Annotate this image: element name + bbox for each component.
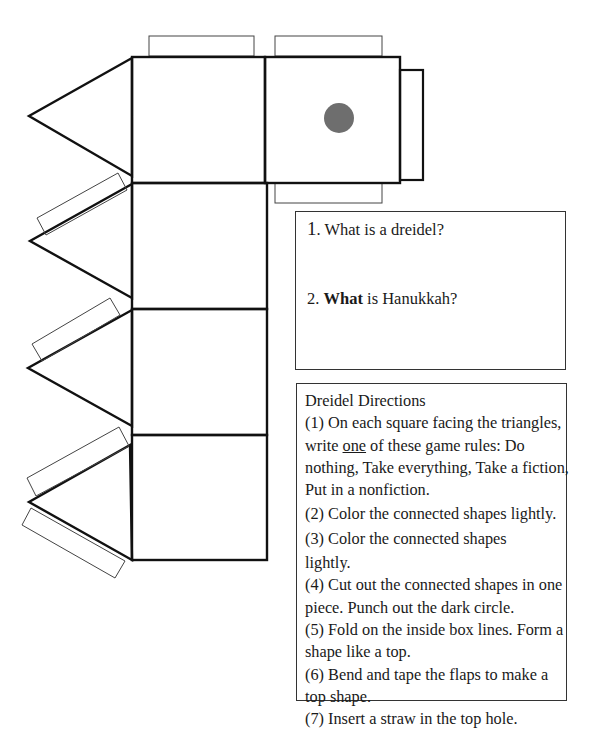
directions-title: Dreidel Directions: [305, 390, 566, 412]
direction-line: (7) Insert a straw in the top hole.: [305, 708, 566, 730]
glue-flap-1: [37, 173, 127, 235]
direction-line: (6) Bend and tape the flaps to make a: [305, 664, 566, 686]
square-top-left: [132, 57, 265, 183]
triangle-2: [30, 184, 132, 298]
direction-line: (2) Color the connected shapes lightly.: [305, 503, 566, 525]
direction-line: write one of these game rules: Do: [305, 435, 566, 457]
direction-line: nothing, Take everything, Take a fiction…: [305, 457, 566, 479]
side-flap-right: [400, 70, 423, 180]
direction-text: of these game rules: Do: [366, 436, 525, 455]
direction-line: (3) Color the connected shapes: [305, 528, 566, 550]
questions-box: 1. What is a dreidel? 2. What is Hanukka…: [295, 211, 566, 370]
punch-circle: [324, 103, 354, 133]
direction-line: lightly.: [305, 552, 566, 574]
direction-line: (5) Fold on the inside box lines. Form a: [305, 619, 566, 641]
bottom-flap-right: [275, 183, 382, 203]
glue-flap-4: [22, 508, 125, 578]
square-3: [132, 309, 267, 435]
direction-text: write: [305, 436, 343, 455]
triangle-1: [29, 58, 132, 176]
question-text: is Hanukkah?: [363, 289, 457, 308]
triangle-3: [28, 310, 132, 426]
glue-flap-2: [32, 298, 120, 361]
question-text: . What is a dreidel?: [317, 220, 445, 239]
direction-line: (4) Cut out the connected shapes in one: [305, 574, 566, 596]
question-bold-word: What: [324, 289, 363, 308]
square-2: [132, 183, 267, 309]
directions-box: Dreidel Directions (1) On each square fa…: [296, 383, 567, 701]
question-number: 1: [307, 218, 317, 239]
direction-line: (1) On each square facing the triangles,: [305, 412, 566, 434]
top-flap-right: [275, 36, 382, 56]
direction-line: shape like a top.: [305, 641, 566, 663]
question-1: 1. What is a dreidel?: [307, 218, 444, 240]
triangle-4: [29, 445, 132, 560]
direction-line: piece. Punch out the dark circle.: [305, 597, 566, 619]
square-4: [132, 435, 267, 560]
question-number: 2.: [307, 289, 324, 308]
glue-flap-3: [27, 427, 129, 496]
question-2: 2. What is Hanukkah?: [307, 289, 457, 309]
underlined-word: one: [343, 436, 367, 455]
top-flap-left: [149, 36, 254, 56]
direction-line: top shape.: [305, 686, 566, 708]
direction-line: Put in a nonfiction.: [305, 479, 566, 501]
